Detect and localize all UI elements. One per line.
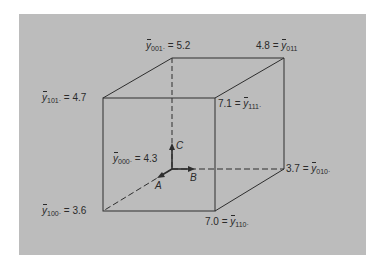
axis-label-b: B — [190, 172, 197, 183]
top-left-depth-edge — [103, 58, 172, 98]
corner-label-101: y101· = 4.7 — [42, 92, 86, 107]
corner-label-100: y100· = 3.6 — [42, 205, 86, 220]
corner-label-111: 7.1 = y111· — [218, 98, 261, 113]
bottom-right-depth-edge — [215, 169, 284, 211]
corner-label-011: 4.8 = y011 — [256, 40, 297, 55]
corner-label-000: y000· = 4.3 — [113, 153, 157, 168]
corner-label-110: 7.0 = y110· — [205, 216, 249, 231]
top-right-depth-edge — [215, 58, 284, 98]
corner-label-010: 3.7 = y010· — [286, 163, 330, 178]
corner-label-001: y001· = 5.2 — [146, 40, 190, 55]
axis-label-c: C — [176, 140, 183, 151]
axis-a-arrow — [162, 169, 172, 175]
axis-label-a: A — [155, 180, 162, 191]
